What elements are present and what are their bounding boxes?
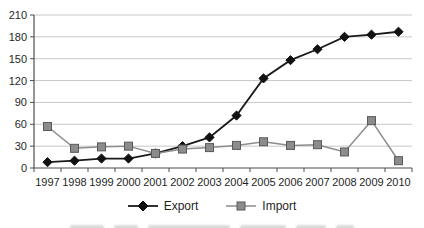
x-tick-label: 2005	[251, 176, 275, 188]
x-tick-label: 1999	[89, 176, 113, 188]
import-data-point	[44, 122, 52, 130]
x-tick-label: 1998	[62, 176, 86, 188]
legend-import-label: Import	[262, 200, 296, 212]
y-tick-label: 30	[15, 140, 27, 152]
export-data-point	[340, 32, 349, 41]
chart-legend: Export Import	[0, 198, 424, 214]
line-chart: 0306090120150180210199719981999200020012…	[0, 0, 424, 196]
export-data-point	[70, 156, 79, 165]
y-axis-labels: 0306090120150180210	[9, 9, 34, 174]
import-data-point	[395, 157, 403, 165]
x-tick-label: 2007	[305, 176, 329, 188]
export-data-point	[124, 154, 133, 163]
x-axis-labels: 1997199819992000200120022003200420052006…	[34, 168, 412, 188]
export-data-point	[313, 45, 322, 54]
x-tick-label: 1997	[35, 176, 59, 188]
import-data-point	[260, 138, 268, 146]
x-tick-label: 2000	[116, 176, 140, 188]
legend-export-label: Export	[164, 200, 199, 212]
chart-screenshot: 0306090120150180210199719981999200020012…	[0, 0, 424, 228]
import-data-point	[341, 148, 349, 156]
cropped-caption-remnant	[0, 219, 424, 228]
x-tick-label: 2004	[224, 176, 248, 188]
y-tick-label: 60	[15, 118, 27, 130]
export-data-point	[394, 27, 403, 36]
x-tick-label: 2006	[278, 176, 302, 188]
import-data-point	[125, 142, 133, 150]
y-tick-label: 120	[9, 75, 27, 87]
export-legend-marker-icon	[128, 200, 158, 212]
export-data-point	[367, 30, 376, 39]
import-data-point	[368, 117, 376, 125]
import-data-point	[179, 145, 187, 153]
x-tick-label: 2010	[386, 176, 410, 188]
import-data-point	[287, 141, 295, 149]
legend-item-import: Import	[226, 200, 296, 212]
x-tick-label: 2003	[197, 176, 221, 188]
legend-item-export: Export	[128, 200, 199, 212]
x-tick-label: 2008	[332, 176, 356, 188]
y-tick-label: 90	[15, 96, 27, 108]
export-data-point	[97, 154, 106, 163]
import-data-point	[152, 149, 160, 157]
x-tick-label: 2001	[143, 176, 167, 188]
y-tick-label: 180	[9, 31, 27, 43]
y-tick-label: 0	[21, 162, 27, 174]
import-legend-marker-icon	[226, 200, 256, 212]
axes	[34, 15, 412, 168]
import-data-point	[233, 141, 241, 149]
y-tick-label: 150	[9, 53, 27, 65]
x-tick-label: 2009	[359, 176, 383, 188]
export-data-point	[43, 158, 52, 167]
x-tick-label: 2002	[170, 176, 194, 188]
import-data-point	[314, 141, 322, 149]
import-data-point	[206, 144, 214, 152]
import-data-point	[98, 143, 106, 151]
y-tick-label: 210	[9, 9, 27, 21]
import-data-point	[71, 144, 79, 152]
